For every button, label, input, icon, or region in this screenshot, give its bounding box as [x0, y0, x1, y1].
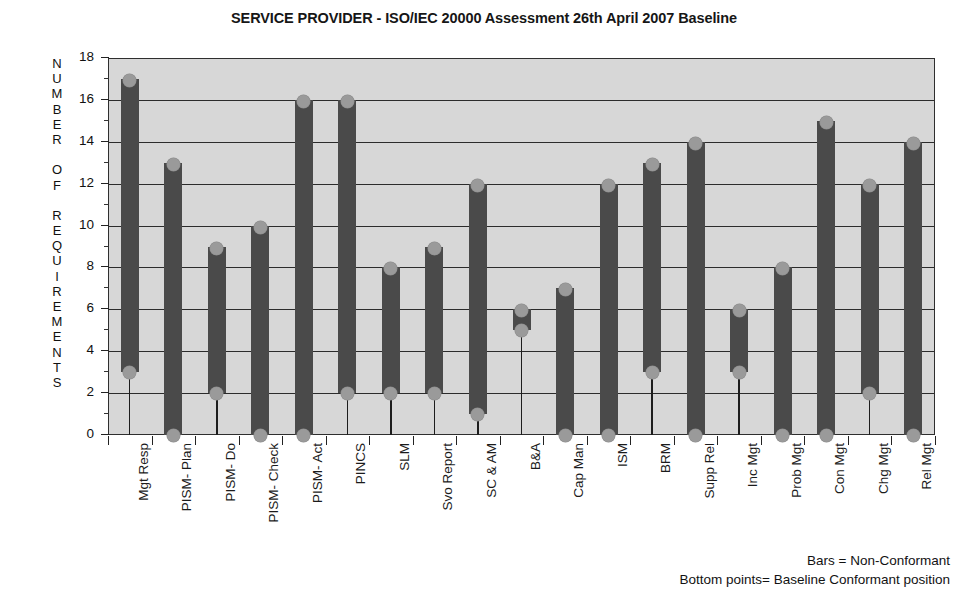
bar[interactable] [904, 142, 922, 435]
y-axis-tick [101, 57, 109, 58]
bar-top-marker [863, 179, 876, 192]
baseline-point-marker [646, 366, 659, 379]
bar[interactable] [382, 267, 400, 393]
bar[interactable] [251, 226, 269, 435]
bar[interactable] [338, 100, 356, 393]
y-axis-title-gap [55, 193, 59, 208]
bar[interactable] [425, 247, 443, 394]
x-axis-tick-label: Cap Man [571, 443, 586, 498]
y-axis-tick [101, 350, 109, 351]
x-axis-tick-label: BRM [658, 443, 673, 473]
x-axis-tick-label: Con Mgt [832, 443, 847, 494]
bar[interactable] [164, 163, 182, 435]
y-axis-minor-tick [104, 371, 109, 372]
bar[interactable] [730, 309, 748, 372]
baseline-point-marker [863, 387, 876, 400]
x-axis-tick-label: SLM [397, 443, 412, 471]
y-axis-minor-tick [104, 78, 109, 79]
bar-top-marker [210, 242, 223, 255]
bar[interactable] [121, 79, 139, 372]
y-axis-minor-tick [104, 162, 109, 163]
bar-top-marker [907, 137, 920, 150]
baseline-point-marker [297, 429, 310, 442]
x-axis-tick [587, 436, 588, 445]
y-axis-tick [101, 392, 109, 393]
baseline-point-marker [602, 429, 615, 442]
y-axis-minor-tick [104, 120, 109, 121]
bar-top-marker [689, 137, 702, 150]
baseline-point-marker [907, 429, 920, 442]
x-axis-tick [108, 436, 109, 445]
x-axis-tick [456, 436, 457, 445]
x-axis-tick-label: Prob Mgt [789, 443, 804, 498]
bar[interactable] [817, 121, 835, 435]
x-axis-tick-label: PISM- Do [223, 443, 238, 502]
y-axis-tick [101, 183, 109, 184]
baseline-point-marker [210, 387, 223, 400]
y-axis-minor-tick [104, 329, 109, 330]
y-axis-tick-label: 8 [58, 258, 94, 273]
x-axis-tick [239, 436, 240, 445]
legend-note-points: Bottom points= Baseline Conformant posit… [679, 570, 950, 589]
bar[interactable] [295, 100, 313, 435]
y-axis-title-letter: R [52, 284, 61, 299]
y-axis-minor-tick [104, 204, 109, 205]
bar[interactable] [556, 288, 574, 435]
y-axis-minor-tick [104, 287, 109, 288]
y-axis-tick-label: 10 [58, 217, 94, 232]
y-axis-tick-label: 0 [58, 426, 94, 441]
x-axis-tick [848, 436, 849, 445]
x-axis-tick-label: PISM- Act [310, 443, 325, 503]
x-axis-tick [500, 436, 501, 445]
y-axis-tick [101, 99, 109, 100]
bar[interactable] [861, 184, 879, 393]
gridline [109, 226, 934, 227]
y-axis-tick [101, 434, 109, 435]
x-axis-tick-label: ISM [615, 443, 630, 467]
bar[interactable] [774, 267, 792, 435]
y-axis-title-gap [55, 147, 59, 162]
x-axis-tick [761, 436, 762, 445]
y-axis-title-letter: Q [52, 238, 62, 253]
baseline-point-marker [820, 429, 833, 442]
y-axis-tick [101, 266, 109, 267]
y-axis-tick [101, 308, 109, 309]
baseline-point-marker [254, 429, 267, 442]
y-axis-tick-label: 4 [58, 342, 94, 357]
y-axis-tick-label: 6 [58, 300, 94, 315]
baseline-point-marker [733, 366, 746, 379]
gridline [109, 100, 934, 101]
y-axis-title-letter: E [53, 117, 62, 132]
baseline-dropline [521, 330, 522, 435]
x-axis-tick-label: Chg Mgt [876, 443, 891, 494]
x-axis-tick-label: Rel Mgt [919, 443, 934, 490]
bar[interactable] [208, 247, 226, 394]
y-axis-title-letter: T [53, 360, 61, 375]
y-axis-tick [101, 141, 109, 142]
gridline [109, 267, 934, 268]
y-axis-minor-tick [104, 413, 109, 414]
y-axis-tick-label: 16 [58, 91, 94, 106]
baseline-point-marker [559, 429, 572, 442]
x-axis-tick [326, 436, 327, 445]
x-axis-tick-label: Inc Mgt [745, 443, 760, 487]
bar[interactable] [600, 184, 618, 435]
x-axis-tick [891, 436, 892, 445]
y-axis-tick-label: 2 [58, 384, 94, 399]
bar[interactable] [469, 184, 487, 414]
x-axis-tick [674, 436, 675, 445]
baseline-dropline [651, 372, 652, 435]
x-axis-tick [413, 436, 414, 445]
x-axis-tick [152, 436, 153, 445]
bar-top-marker [341, 95, 354, 108]
baseline-point-marker [341, 387, 354, 400]
x-axis-tick-label: PISM- Check [266, 443, 281, 523]
bar[interactable] [687, 142, 705, 435]
gridline [109, 142, 934, 143]
x-axis-tick [543, 436, 544, 445]
baseline-point-marker [167, 429, 180, 442]
x-axis-tick [935, 436, 936, 445]
legend-note-bars: Bars = Non-Conformant [679, 551, 950, 570]
bar[interactable] [643, 163, 661, 372]
baseline-point-marker [776, 429, 789, 442]
